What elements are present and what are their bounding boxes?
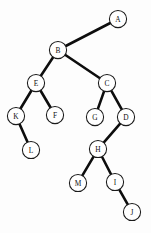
tree-diagram-canvas: ABECKFGDLHMIJ [0,0,151,233]
tree-node-E[interactable]: E [27,74,44,91]
tree-node-label-F: F [53,111,57,120]
tree-edge-E-K [20,90,32,110]
tree-edge-E-F [40,90,51,109]
tree-node-K[interactable]: K [7,107,24,124]
tree-node-D[interactable]: D [117,108,134,125]
tree-node-label-M: M [75,179,82,188]
tree-edge-D-H [103,123,121,144]
tree-node-J[interactable]: J [123,203,140,220]
tree-node-B[interactable]: B [49,41,66,58]
tree-node-F[interactable]: F [46,106,63,123]
tree-edge-C-G [98,90,105,110]
tree-node-L[interactable]: L [22,141,39,158]
tree-node-label-K: K [13,112,19,121]
tree-node-label-E: E [34,79,39,88]
tree-edge-H-I [101,156,111,175]
tree-node-M[interactable]: M [69,174,86,191]
tree-diagram-figure: ABECKFGDLHMIJ [0,0,151,233]
tree-node-label-C: C [105,79,110,88]
tree-node-G[interactable]: G [86,108,103,125]
tree-node-label-D: D [123,113,129,122]
tree-edge-B-C [64,54,100,79]
tree-node-label-A: A [115,15,121,24]
tree-node-label-J: J [131,208,134,217]
tree-node-label-L: L [29,146,34,155]
figure-caption [0,224,151,233]
tree-edge-B-E [40,56,54,76]
tree-edge-I-J [119,189,129,206]
tree-edge-A-B [65,22,112,46]
tree-node-C[interactable]: C [98,74,115,91]
tree-edge-K-L [19,123,28,143]
tree-node-I[interactable]: I [106,173,123,190]
tree-node-label-B: B [56,46,61,55]
tree-node-label-G: G [92,113,98,122]
tree-node-label-H: H [95,145,101,154]
tree-edge-C-D [111,90,123,111]
tree-edge-H-M [82,156,94,177]
tree-node-H[interactable]: H [89,140,106,157]
tree-node-A[interactable]: A [109,10,126,27]
